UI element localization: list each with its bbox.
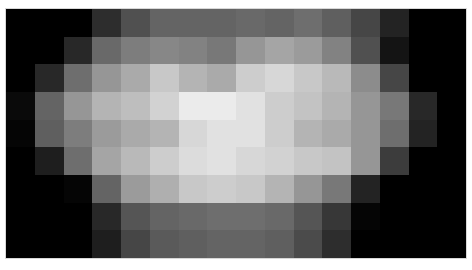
heatmap-cell bbox=[121, 120, 150, 148]
heatmap-cell bbox=[121, 147, 150, 175]
heatmap-cell bbox=[35, 147, 64, 175]
heatmap-cell bbox=[409, 203, 438, 231]
heatmap-cell bbox=[64, 64, 93, 92]
heatmap-cell bbox=[351, 175, 380, 203]
heatmap-cell bbox=[380, 175, 409, 203]
heatmap-cell bbox=[409, 120, 438, 148]
heatmap-cell bbox=[380, 203, 409, 231]
heatmap-cell bbox=[236, 120, 265, 148]
heatmap-cell bbox=[265, 203, 294, 231]
heatmap-cell bbox=[179, 175, 208, 203]
heatmap-cell bbox=[35, 175, 64, 203]
heatmap-cell bbox=[236, 92, 265, 120]
heatmap-cell bbox=[92, 37, 121, 65]
heatmap-cell bbox=[207, 92, 236, 120]
heatmap-cell bbox=[6, 175, 35, 203]
heatmap-cell bbox=[92, 9, 121, 37]
heatmap-cell bbox=[179, 9, 208, 37]
heatmap-cell bbox=[6, 64, 35, 92]
heatmap-cell bbox=[351, 203, 380, 231]
heatmap-cell bbox=[150, 175, 179, 203]
heatmap-cell bbox=[437, 37, 466, 65]
heatmap-cell bbox=[409, 9, 438, 37]
heatmap-cell bbox=[35, 37, 64, 65]
heatmap-cell bbox=[207, 120, 236, 148]
heatmap-cell bbox=[64, 175, 93, 203]
heatmap-cell bbox=[179, 147, 208, 175]
heatmap-cell bbox=[294, 64, 323, 92]
heatmap-cell bbox=[64, 230, 93, 258]
heatmap-cell bbox=[380, 9, 409, 37]
heatmap-cell bbox=[150, 37, 179, 65]
heatmap-cell bbox=[409, 230, 438, 258]
heatmap-cell bbox=[409, 92, 438, 120]
heatmap-cell bbox=[6, 37, 35, 65]
heatmap-cell bbox=[150, 92, 179, 120]
heatmap-cell bbox=[437, 147, 466, 175]
heatmap-cell bbox=[265, 64, 294, 92]
heatmap-cell bbox=[6, 230, 35, 258]
heatmap-cell bbox=[294, 147, 323, 175]
heatmap-cell bbox=[92, 92, 121, 120]
heatmap-cell bbox=[236, 64, 265, 92]
heatmap-cell bbox=[380, 64, 409, 92]
heatmap-cell bbox=[236, 37, 265, 65]
heatmap-cell bbox=[6, 203, 35, 231]
heatmap-cell bbox=[265, 120, 294, 148]
heatmap-cell bbox=[322, 147, 351, 175]
heatmap-cell bbox=[294, 37, 323, 65]
heatmap-cell bbox=[64, 9, 93, 37]
heatmap-cell bbox=[92, 120, 121, 148]
heatmap-cell bbox=[121, 37, 150, 65]
heatmap-cell bbox=[265, 37, 294, 65]
heatmap-cell bbox=[236, 9, 265, 37]
heatmap-cell bbox=[409, 37, 438, 65]
heatmap-grid bbox=[6, 9, 466, 258]
heatmap-cell bbox=[179, 37, 208, 65]
heatmap-cell bbox=[150, 64, 179, 92]
heatmap-cell bbox=[437, 64, 466, 92]
heatmap-cell bbox=[121, 9, 150, 37]
heatmap-cell bbox=[121, 203, 150, 231]
heatmap-cell bbox=[351, 120, 380, 148]
heatmap-cell bbox=[265, 9, 294, 37]
heatmap-cell bbox=[64, 120, 93, 148]
heatmap-cell bbox=[207, 64, 236, 92]
heatmap-cell bbox=[35, 92, 64, 120]
heatmap-cell bbox=[437, 175, 466, 203]
heatmap-cell bbox=[236, 147, 265, 175]
heatmap-cell bbox=[409, 147, 438, 175]
heatmap-cell bbox=[92, 147, 121, 175]
heatmap-cell bbox=[409, 64, 438, 92]
heatmap-cell bbox=[380, 120, 409, 148]
heatmap-cell bbox=[236, 230, 265, 258]
heatmap-cell bbox=[351, 64, 380, 92]
heatmap-cell bbox=[64, 147, 93, 175]
heatmap-cell bbox=[380, 230, 409, 258]
heatmap-cell bbox=[179, 120, 208, 148]
heatmap-cell bbox=[294, 92, 323, 120]
heatmap-cell bbox=[351, 230, 380, 258]
heatmap-cell bbox=[35, 230, 64, 258]
heatmap-cell bbox=[150, 120, 179, 148]
heatmap-cell bbox=[150, 230, 179, 258]
heatmap-cell bbox=[207, 147, 236, 175]
heatmap-cell bbox=[6, 120, 35, 148]
heatmap-cell bbox=[437, 120, 466, 148]
heatmap-cell bbox=[380, 147, 409, 175]
heatmap-cell bbox=[322, 203, 351, 231]
heatmap-cell bbox=[294, 203, 323, 231]
heatmap-cell bbox=[150, 147, 179, 175]
heatmap-cell bbox=[92, 64, 121, 92]
heatmap-cell bbox=[351, 9, 380, 37]
heatmap-cell bbox=[265, 175, 294, 203]
heatmap-cell bbox=[35, 64, 64, 92]
heatmap-cell bbox=[150, 9, 179, 37]
heatmap-cell bbox=[64, 92, 93, 120]
heatmap-cell bbox=[121, 92, 150, 120]
heatmap-cell bbox=[35, 9, 64, 37]
heatmap-cell bbox=[179, 203, 208, 231]
heatmap-cell bbox=[294, 175, 323, 203]
heatmap-cell bbox=[6, 147, 35, 175]
heatmap-cell bbox=[437, 9, 466, 37]
